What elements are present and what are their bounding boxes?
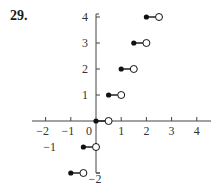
y-tick-label: 2 <box>82 62 88 76</box>
open-endpoint <box>80 170 87 177</box>
x-tick-label: 4 <box>194 124 200 138</box>
open-endpoint <box>118 92 125 99</box>
x-tick-label: 1 <box>118 124 124 138</box>
closed-endpoint <box>93 118 98 123</box>
closed-endpoint <box>81 144 86 149</box>
y-tick-label: −2 <box>89 172 102 186</box>
y-tick-label: 1 <box>82 88 88 102</box>
closed-endpoint <box>119 66 124 71</box>
closed-endpoint <box>68 170 73 175</box>
x-tick-label: 0 <box>86 124 92 138</box>
open-endpoint <box>105 118 112 125</box>
y-tick-label: −1 <box>43 140 56 154</box>
x-tick-label: 3 <box>169 124 175 138</box>
step-function-chart: −2−1012344321−1−2 <box>0 0 222 191</box>
open-endpoint <box>143 40 150 47</box>
y-tick-label: 3 <box>82 36 88 50</box>
closed-endpoint <box>131 40 136 45</box>
open-endpoint <box>130 66 137 73</box>
open-endpoint <box>156 14 163 21</box>
closed-endpoint <box>106 92 111 97</box>
x-tick-label: −2 <box>36 124 49 138</box>
x-tick-label: −1 <box>61 124 74 138</box>
y-tick-label: 4 <box>82 10 88 24</box>
closed-endpoint <box>144 14 149 19</box>
open-endpoint <box>93 144 100 151</box>
x-tick-label: 2 <box>143 124 149 138</box>
